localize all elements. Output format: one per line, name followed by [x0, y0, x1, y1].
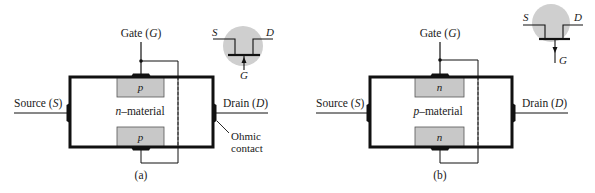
jfet-construction-diagram: Gate (G) p p n–material Source (S) Drain… [0, 0, 595, 193]
panel-b-p-channel-jfet: Gate (G) n n p–material Source (S) Drain… [316, 4, 583, 182]
drain-label-a: Drain (D) [223, 97, 268, 110]
material-label-a: n–material [115, 105, 164, 117]
ohmic-contact-label-line1: Ohmic [231, 130, 261, 142]
gate-label-b: Gate (G) [420, 27, 461, 40]
source-label-b: Source (S) [316, 97, 364, 110]
p-region-top-label: p [137, 81, 144, 93]
panel-a-n-channel-jfet: Gate (G) p p n–material Source (S) Drain… [14, 26, 274, 182]
gate-contact-bottom-a [131, 147, 151, 151]
caption-a: (a) [135, 169, 148, 182]
drain-contact-b [512, 103, 516, 123]
drain-label-b: Drain (D) [522, 97, 567, 110]
symbol-d-label-b: D [573, 11, 582, 23]
source-contact-b [367, 103, 371, 123]
symbol-g-label-b: G [559, 54, 567, 66]
drain-contact-a [213, 103, 217, 123]
symbol-s-label-a: S [212, 26, 218, 38]
arrow-down-icon [553, 47, 558, 53]
n-region-bottom-label: n [437, 131, 443, 143]
gate-contact-bottom-b [430, 147, 450, 151]
p-channel-jfet-symbol: S D G [523, 4, 583, 66]
symbol-circle-b [532, 4, 570, 42]
ohmic-contact-label-line2: contact [231, 142, 263, 154]
p-region-bottom-label: p [137, 131, 144, 143]
symbol-s-label-b: S [523, 11, 529, 23]
gate-contact-top-a [131, 74, 151, 78]
n-region-top-label: n [437, 81, 443, 93]
symbol-g-label-a: G [240, 69, 248, 81]
source-contact-a [67, 103, 71, 123]
gate-label-a: Gate (G) [121, 27, 162, 40]
caption-b: (b) [433, 169, 447, 182]
material-label-b: p–material [412, 105, 462, 118]
n-channel-jfet-symbol: S D G [212, 26, 274, 81]
ohmic-contact-leader [217, 121, 229, 133]
symbol-d-label-a: D [265, 26, 274, 38]
source-label-a: Source (S) [14, 97, 62, 110]
gate-contact-top-b [430, 74, 450, 78]
